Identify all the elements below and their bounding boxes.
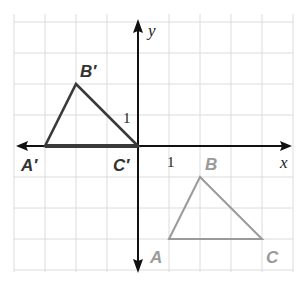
x-unit-label: 1 — [167, 154, 175, 170]
point-label-b-prime: B′ — [80, 62, 97, 81]
y-axis-up-arrow-icon — [133, 19, 143, 33]
point-label-c: C — [266, 248, 279, 267]
point-label-a-prime: A′ — [20, 156, 38, 175]
coordinate-plane: y x 1 1 A′ B′ C′ A B C — [0, 0, 300, 282]
point-label-c-prime: C′ — [113, 156, 130, 175]
y-unit-label: 1 — [123, 110, 131, 126]
x-axis-label: x — [279, 153, 288, 172]
grid-lines — [14, 14, 293, 272]
y-axis-label: y — [146, 21, 156, 40]
point-label-b: B — [205, 155, 217, 174]
coordinate-plane-svg: y x 1 1 A′ B′ C′ A B C — [0, 0, 300, 282]
point-label-a: A — [149, 248, 162, 267]
y-axis-down-arrow-icon — [133, 259, 143, 273]
